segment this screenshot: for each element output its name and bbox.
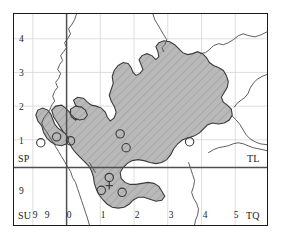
- x-tick-label-4: 4: [203, 211, 208, 221]
- grid-square-label-tq: TQ: [246, 211, 260, 221]
- map-graphic: [14, 14, 267, 225]
- y-tick-label-9: 9: [19, 187, 24, 197]
- x-tick-label-3: 3: [169, 211, 174, 221]
- y-tick-label-2: 2: [19, 103, 24, 113]
- x-tick-label-9-duplicate: 9: [45, 211, 50, 221]
- x-tick-label-5: 5: [234, 211, 239, 221]
- grid-reference-map: SP TL SU TQ 9 0 1 2 3 4 5 1 2 3 4 9 9: [0, 0, 281, 240]
- y-tick-label-4: 4: [19, 35, 24, 45]
- grid-square-label-tl: TL: [247, 154, 260, 164]
- grid-square-label-sp: SP: [18, 154, 30, 164]
- study-region: [52, 41, 233, 208]
- grid-square-label-su: SU: [18, 211, 31, 221]
- record-marker: [185, 138, 193, 146]
- x-tick-label-0: 0: [67, 211, 72, 221]
- y-tick-label-1: 1: [19, 137, 24, 147]
- x-tick-label-1: 1: [101, 211, 106, 221]
- map-frame: SP TL SU TQ 9 0 1 2 3 4 5 1 2 3 4 9 9: [13, 13, 268, 226]
- y-tick-label-3: 3: [19, 69, 24, 79]
- x-tick-label-9: 9: [33, 211, 38, 221]
- x-tick-label-2: 2: [135, 211, 140, 221]
